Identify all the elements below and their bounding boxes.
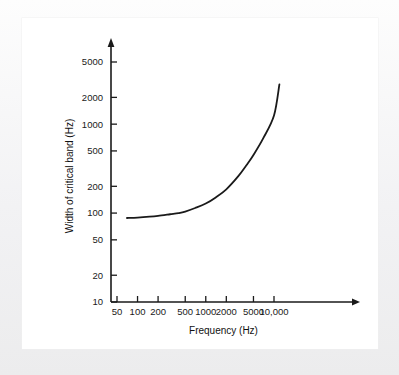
x-tick-label-1000: 1000 [195, 306, 216, 317]
y-tick-label-5000: 5000 [82, 56, 103, 67]
x-axis-title: Frequency (Hz) [189, 325, 258, 336]
axis-layer [108, 38, 360, 305]
critical-band-chart: 5010020050010002000500010,00010205010020… [0, 0, 399, 375]
y-tick-label-20: 20 [92, 270, 103, 281]
x-tick-label-500: 500 [177, 306, 193, 317]
y-axis-arrowhead [108, 38, 115, 47]
x-axis-arrowhead [352, 299, 360, 306]
y-tick-label-2000: 2000 [82, 92, 103, 103]
figure-root: 5010020050010002000500010,00010205010020… [0, 0, 399, 375]
y-tick-label-50: 50 [92, 234, 103, 245]
x-tick-label-200: 200 [150, 306, 166, 317]
x-tick-label-50: 50 [112, 306, 123, 317]
x-tick-label-100: 100 [130, 306, 146, 317]
tick-layer [111, 62, 274, 302]
y-tick-label-100: 100 [87, 207, 103, 218]
x-tick-label-2000: 2000 [216, 306, 237, 317]
x-tick-label-10000: 10,000 [259, 306, 288, 317]
y-tick-label-200: 200 [87, 181, 103, 192]
y-tick-label-1000: 1000 [82, 119, 103, 130]
data-curve-layer [127, 84, 279, 218]
y-tick-label-10: 10 [92, 296, 103, 307]
data-curve-0 [127, 84, 279, 218]
y-tick-label-500: 500 [87, 145, 103, 156]
y-axis-title: Width of critical band (Hz) [64, 119, 75, 233]
plot-area: 5010020050010002000500010,00010205010020… [0, 0, 399, 375]
